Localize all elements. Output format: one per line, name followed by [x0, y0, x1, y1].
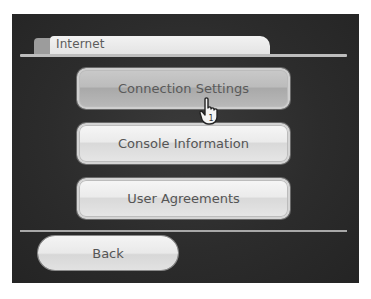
pointing-hand-icon: 1: [198, 96, 222, 126]
user-agreements-label: User Agreements: [127, 191, 240, 206]
internet-settings-screen: Internet Connection Settings Console Inf…: [12, 14, 359, 283]
back-button[interactable]: Back: [38, 236, 178, 270]
console-information-button[interactable]: Console Information: [77, 123, 290, 164]
connection-settings-button[interactable]: Connection Settings: [77, 68, 290, 109]
user-agreements-button[interactable]: User Agreements: [77, 178, 290, 219]
connection-settings-label: Connection Settings: [118, 81, 249, 96]
svg-text:1: 1: [209, 114, 214, 123]
footer-divider: [20, 230, 347, 232]
console-information-label: Console Information: [118, 136, 249, 151]
page-title: Internet: [56, 37, 104, 51]
header-tab: Internet: [50, 36, 270, 54]
back-label: Back: [92, 246, 124, 261]
header-divider: [20, 54, 347, 57]
